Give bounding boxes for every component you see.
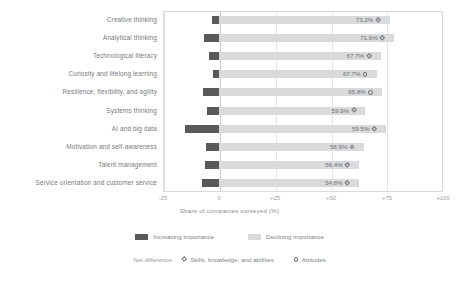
- net-difference-value: 54.8%: [325, 180, 349, 186]
- category-label: Technological literacy: [93, 53, 157, 59]
- declining-bar: [202, 179, 219, 187]
- value-text: 58.9%: [330, 144, 348, 150]
- legend-item-increasing[interactable]: Increasing importance: [135, 233, 214, 240]
- category-label: Motivation and self-awareness: [66, 144, 157, 150]
- category-label: Creative thinking: [107, 17, 157, 23]
- diamond-marker-icon: [344, 180, 350, 186]
- legend-item-net-skills[interactable]: Skills, knowledge, and abilities: [182, 256, 273, 263]
- bar-rows: Creative thinking73.2%Analytical thinkin…: [0, 0, 459, 287]
- legend-item-declining[interactable]: Declining importance: [248, 233, 324, 240]
- x-tick-1: 0: [217, 195, 220, 201]
- net-difference-value: 58.9%: [330, 144, 354, 150]
- x-axis-ticks: -250+25+50+75+100: [163, 195, 443, 205]
- value-text: 73.2%: [356, 17, 374, 23]
- bar-row: Technological literacy67.7%: [0, 47, 459, 65]
- bar-row: Analytical thinking71.6%: [0, 29, 459, 47]
- bar-row: Curiosity and lifelong learning67.7%: [0, 65, 459, 83]
- category-label: Service orientation and customer service: [36, 180, 157, 186]
- bar-row: Talent management56.4%: [0, 156, 459, 174]
- circle-marker-icon: [368, 90, 372, 94]
- diamond-marker-icon: [375, 17, 381, 23]
- declining-bar: [206, 143, 219, 151]
- x-tick-3: +50: [326, 195, 336, 201]
- net-difference-label: Net difference:: [133, 256, 173, 263]
- category-label: AI and big data: [112, 125, 157, 131]
- value-text: 71.6%: [360, 35, 378, 41]
- bar-row: Resilience, flexibility, and agility65.8…: [0, 83, 459, 101]
- value-text: 65.8%: [348, 89, 366, 95]
- value-text: 67.7%: [347, 53, 365, 59]
- value-text: 54.8%: [325, 180, 343, 186]
- category-label: Systems thinking: [106, 107, 157, 113]
- x-axis-title: Share of companies surveyed (%): [0, 207, 459, 214]
- diamond-marker-icon: [181, 256, 187, 262]
- x-tick-2: +25: [270, 195, 280, 201]
- net-difference-value: 59.5%: [352, 126, 376, 132]
- diamond-marker-icon: [344, 162, 350, 168]
- category-label: Resilience, flexibility, and agility: [63, 89, 157, 95]
- circle-marker-icon: [363, 72, 367, 76]
- net-difference-value: 65.8%: [348, 89, 372, 95]
- declining-bar: [212, 16, 219, 24]
- category-label: Curiosity and lifelong learning: [69, 71, 158, 77]
- series-legend: Increasing importance Declining importan…: [0, 233, 459, 240]
- declining-bar: [207, 107, 219, 115]
- circle-marker-icon: [294, 257, 298, 261]
- diamond-marker-icon: [379, 35, 385, 41]
- value-text: 56.4%: [325, 162, 343, 168]
- net-difference-legend: Net difference: Skills, knowledge, and a…: [0, 256, 459, 263]
- x-tick-5: +100: [436, 195, 449, 201]
- declining-swatch-icon: [248, 234, 261, 240]
- increasing-swatch-icon: [135, 234, 148, 240]
- diamond-marker-icon: [371, 126, 377, 132]
- x-tick-0: -25: [159, 195, 167, 201]
- x-tick-4: +75: [382, 195, 392, 201]
- declining-bar: [204, 34, 219, 42]
- value-text: 59.5%: [352, 126, 370, 132]
- net-difference-value: 71.6%: [360, 35, 384, 41]
- bar-row: AI and big data59.5%: [0, 120, 459, 138]
- legend-label-increasing: Increasing importance: [153, 233, 214, 240]
- legend-label-declining: Declining importance: [266, 233, 324, 240]
- bar-row: Systems thinking59.9%: [0, 102, 459, 120]
- legend-label-net-skills: Skills, knowledge, and abilities: [190, 256, 274, 263]
- bar-row: Creative thinking73.2%: [0, 11, 459, 29]
- net-difference-value: 73.2%: [356, 17, 380, 23]
- circle-marker-icon: [350, 145, 354, 149]
- net-difference-value: 56.4%: [325, 162, 349, 168]
- declining-bar: [205, 161, 219, 169]
- declining-bar: [185, 125, 219, 133]
- net-difference-value: 59.9%: [331, 107, 355, 113]
- declining-bar: [209, 52, 219, 60]
- legend-label-net-attitudes: Attitudes: [302, 256, 326, 263]
- chart-container: Creative thinking73.2%Analytical thinkin…: [0, 0, 459, 287]
- category-label: Talent management: [98, 162, 157, 168]
- diamond-marker-icon: [351, 107, 357, 113]
- value-text: 67.7%: [343, 71, 361, 77]
- bar-row: Service orientation and customer service…: [0, 174, 459, 192]
- declining-bar: [203, 88, 219, 96]
- value-text: 59.9%: [331, 107, 349, 113]
- diamond-marker-icon: [366, 53, 372, 59]
- bar-row: Motivation and self-awareness58.9%: [0, 138, 459, 156]
- category-label: Analytical thinking: [103, 35, 157, 41]
- net-difference-value: 67.7%: [343, 71, 367, 77]
- net-difference-value: 67.7%: [347, 53, 371, 59]
- legend-item-net-attitudes[interactable]: Attitudes: [294, 256, 326, 263]
